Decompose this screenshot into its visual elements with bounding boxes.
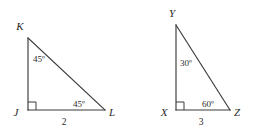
angle-label-k: 45º — [33, 54, 45, 64]
angle-label-y: 30º — [180, 58, 192, 68]
vertex-label-x: X — [160, 106, 169, 118]
vertex-label-l: L — [108, 106, 115, 118]
side-label-jl: 2 — [62, 117, 67, 127]
vertex-label-k: K — [15, 20, 24, 32]
geometry-figure: K J L 45º 45º 2 Y X Z 30º 60º — [0, 0, 262, 138]
triangle-xyz: Y X Z 30º 60º 3 — [160, 7, 241, 127]
segment-kl — [28, 38, 105, 110]
angle-label-l: 45º — [73, 99, 85, 109]
vertex-label-z: Z — [234, 106, 241, 118]
right-angle-mark-x — [176, 102, 184, 110]
vertex-label-y: Y — [169, 7, 177, 19]
angle-label-z: 60º — [202, 99, 214, 109]
side-label-xz: 3 — [199, 117, 204, 127]
right-angle-mark-j — [28, 102, 36, 110]
triangle-jkl: K J L 45º 45º 2 — [14, 20, 116, 127]
triangles-diagram: K J L 45º 45º 2 Y X Z 30º 60º — [0, 0, 262, 138]
vertex-label-j: J — [14, 106, 20, 118]
